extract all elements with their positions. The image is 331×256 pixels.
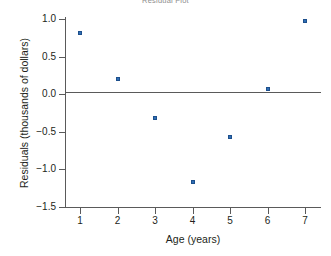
y-axis-tick <box>59 207 65 208</box>
x-axis-tick <box>193 208 194 214</box>
x-axis-tick-label: 1 <box>70 216 90 226</box>
x-axis-tick-label: 3 <box>145 216 165 226</box>
x-axis-tick <box>155 208 156 214</box>
x-axis-tick-label: 6 <box>258 216 278 226</box>
data-point <box>116 77 120 81</box>
x-axis-tick <box>118 208 119 214</box>
chart-title: Residual Plot <box>0 0 331 4</box>
x-axis-tick-label: 5 <box>220 216 240 226</box>
x-axis-title: Age (years) <box>65 233 321 245</box>
residual-plot-figure: Residual Plot 1.00.50.0−0.5−1.0−1.5 1234… <box>0 0 331 256</box>
x-axis-tick <box>230 208 231 214</box>
x-axis-tick-label: 2 <box>108 216 128 226</box>
x-axis-tick-label: 7 <box>295 216 315 226</box>
plot-area <box>65 19 320 207</box>
data-point <box>266 87 270 91</box>
x-axis-tick <box>80 208 81 214</box>
y-axis-title: Residuals (thousands of dollars) <box>18 13 30 213</box>
x-axis-tick-label: 4 <box>183 216 203 226</box>
data-point <box>191 180 195 184</box>
data-point <box>78 31 82 35</box>
x-axis-tick <box>268 208 269 214</box>
data-point <box>153 116 157 120</box>
x-axis-tick <box>305 208 306 214</box>
data-point <box>228 135 232 139</box>
data-point <box>303 19 307 23</box>
